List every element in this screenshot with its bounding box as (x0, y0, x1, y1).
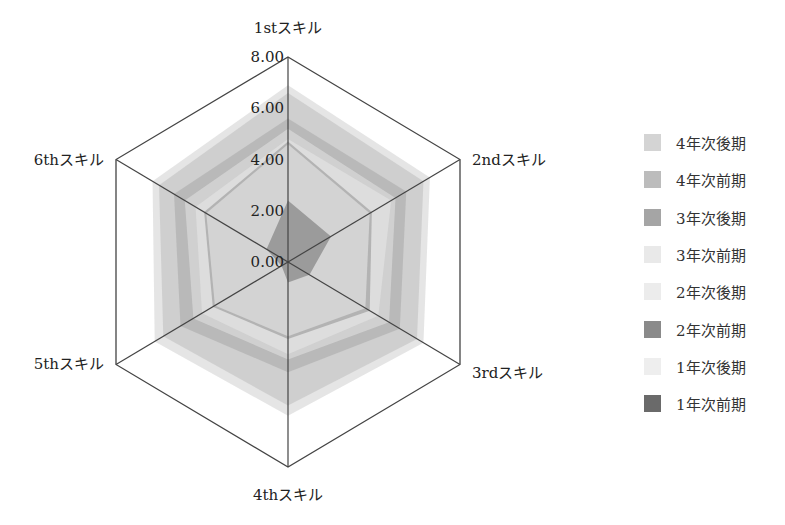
tick-label: 2.00 (251, 202, 284, 220)
axis-label: 1stスキル (254, 19, 322, 37)
legend-item: 3年次後期 (644, 199, 784, 236)
legend-item: 2年次前期 (644, 310, 784, 347)
legend-swatch (644, 246, 661, 263)
tick-label: 6.00 (251, 99, 284, 117)
axis-label: 2ndスキル (472, 151, 546, 169)
legend-label: 3年次前期 (676, 244, 746, 265)
legend-item: 3年次前期 (644, 236, 784, 273)
legend-item: 1年次後期 (644, 348, 784, 385)
tick-label: 0.00 (251, 253, 284, 271)
legend-swatch (644, 134, 661, 151)
tick-label: 4.00 (251, 151, 284, 169)
legend-item: 4年次後期 (644, 124, 784, 161)
series-areas (153, 85, 430, 416)
legend-swatch (644, 321, 661, 338)
legend-swatch (644, 395, 661, 412)
legend-label: 1年次後期 (676, 356, 746, 377)
legend-label: 4年次後期 (676, 132, 746, 153)
legend-label: 2年次前期 (676, 319, 746, 340)
legend-swatch (644, 209, 661, 226)
legend-item: 1年次前期 (644, 385, 784, 422)
axis-label: 3rdスキル (472, 364, 543, 382)
legend-swatch (644, 283, 661, 300)
legend-item: 2年次後期 (644, 273, 784, 310)
legend-label: 3年次後期 (676, 207, 746, 228)
legend: 4年次後期 4年次前期 3年次後期 3年次前期 2年次後期 2年次前期 1年次後… (644, 124, 784, 422)
axis-label: 5thスキル (34, 355, 104, 373)
axis-label: 4thスキル (253, 486, 323, 504)
legend-label: 1年次前期 (676, 393, 746, 414)
axis-label: 6thスキル (34, 151, 104, 169)
tick-label: 8.00 (251, 48, 284, 66)
legend-item: 4年次前期 (644, 161, 784, 198)
legend-label: 2年次後期 (676, 281, 746, 302)
legend-label: 4年次前期 (676, 169, 746, 190)
legend-swatch (644, 171, 661, 188)
legend-swatch (644, 358, 661, 375)
